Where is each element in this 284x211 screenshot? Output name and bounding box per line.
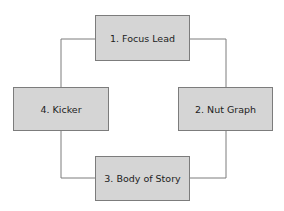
node-label: 1. Focus Lead xyxy=(110,33,175,44)
node-focus-lead: 1. Focus Lead xyxy=(95,15,190,61)
node-nut-graph: 2. Nut Graph xyxy=(178,87,273,131)
node-label: 4. Kicker xyxy=(40,104,81,115)
connector-nut-graph-to-body xyxy=(190,131,226,178)
story-structure-diagram: 1. Focus Lead 2. Nut Graph 3. Body of St… xyxy=(0,0,284,211)
node-body-of-story: 3. Body of Story xyxy=(95,156,190,201)
connector-kicker-to-body xyxy=(61,131,95,178)
node-kicker: 4. Kicker xyxy=(13,87,109,131)
node-label: 3. Body of Story xyxy=(104,173,180,184)
node-label: 2. Nut Graph xyxy=(195,104,256,115)
connector-focus-lead-to-nut-graph xyxy=(190,39,226,87)
connector-focus-lead-to-kicker xyxy=(61,39,95,87)
